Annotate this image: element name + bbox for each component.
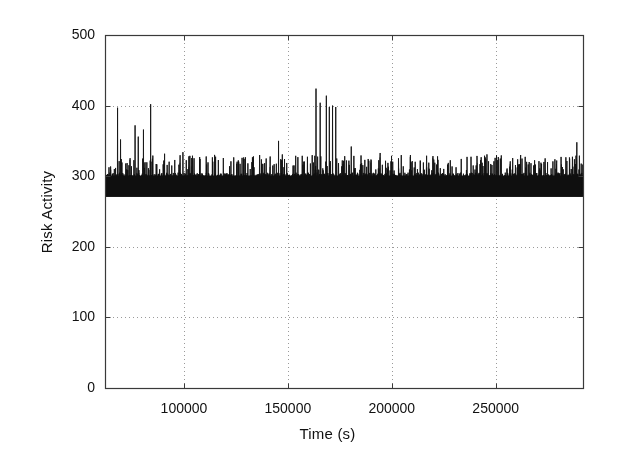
y-axis-title: Risk Activity bbox=[38, 92, 55, 332]
x-tick-label-200000: 200000 bbox=[347, 400, 437, 416]
x-axis-title: Time (s) bbox=[0, 425, 617, 442]
x-tick-label-150000: 150000 bbox=[243, 400, 333, 416]
chart-figure: 0 100 200 300 400 500 100000 150000 2000… bbox=[0, 0, 617, 459]
y-tick-label-500: 500 bbox=[43, 26, 95, 42]
y-tick-label-0: 0 bbox=[43, 379, 95, 395]
x-tick-label-250000: 250000 bbox=[451, 400, 541, 416]
x-tick-label-100000: 100000 bbox=[139, 400, 229, 416]
